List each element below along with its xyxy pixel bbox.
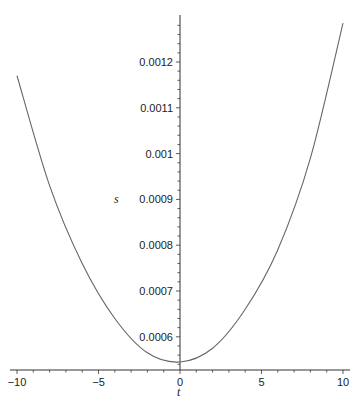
y-tick-label: 0.0007	[139, 285, 173, 297]
chart-plot: −10−50510 0.00060.00070.00080.00090.0010…	[0, 0, 358, 408]
x-tick-label: 10	[337, 376, 349, 388]
y-axis-ticks: 0.00060.00070.00080.00090.0010.00110.001…	[139, 25, 180, 364]
x-tick-label: −10	[8, 376, 27, 388]
y-tick-label: 0.0011	[140, 102, 173, 114]
y-axis-label: s	[114, 192, 119, 206]
x-tick-label: 5	[258, 376, 264, 388]
y-tick-label: 0.0008	[139, 239, 173, 251]
x-tick-label: −5	[92, 376, 105, 388]
y-tick-label: 0.0009	[139, 193, 173, 205]
y-tick-label: 0.001	[145, 148, 173, 160]
axes	[10, 15, 350, 370]
y-tick-label: 0.0006	[139, 331, 173, 343]
y-tick-label: 0.0012	[139, 56, 173, 68]
